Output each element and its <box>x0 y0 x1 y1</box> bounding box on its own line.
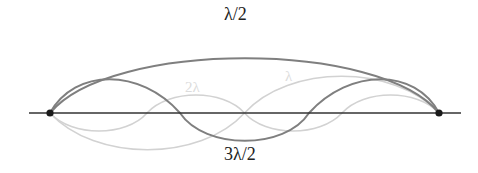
wave-half-wavelength <box>50 58 439 113</box>
standing-wave-diagram: λ/2 3λ/2 2λ λ <box>0 0 478 173</box>
label-half-wavelength: λ/2 <box>224 4 247 25</box>
label-one-wavelength: λ <box>285 68 292 85</box>
label-three-half-wavelength: 3λ/2 <box>224 144 256 165</box>
right-node-dot <box>435 109 442 116</box>
wave-three-half-wavelength <box>50 79 439 141</box>
left-node-dot <box>46 109 53 116</box>
label-two-wavelength: 2λ <box>185 79 200 96</box>
